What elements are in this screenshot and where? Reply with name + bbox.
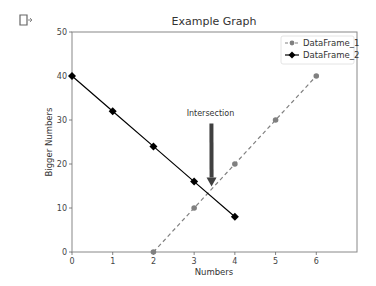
x-tick-label: 4 bbox=[232, 257, 237, 266]
y-axis-label: Bigger Numbers bbox=[44, 107, 54, 177]
y-tick-label: 50 bbox=[57, 28, 67, 37]
legend-label-1: DataFrame_1 bbox=[303, 38, 359, 48]
y-tick-label: 20 bbox=[57, 160, 67, 169]
legend-label-2: DataFrame_2 bbox=[303, 50, 359, 60]
x-axis-ticks: 0123456 bbox=[69, 252, 318, 266]
x-tick-label: 2 bbox=[151, 257, 156, 266]
x-tick-label: 3 bbox=[192, 257, 197, 266]
chart-title: Example Graph bbox=[172, 15, 257, 28]
data-point bbox=[191, 205, 197, 211]
legend: DataFrame_1 DataFrame_2 bbox=[281, 36, 359, 64]
y-tick-label: 30 bbox=[57, 116, 67, 125]
plot-area bbox=[72, 32, 357, 252]
data-point bbox=[313, 73, 319, 79]
x-tick-label: 1 bbox=[110, 257, 115, 266]
chart: Example Graph 0123456 01020304050 Number… bbox=[0, 0, 376, 286]
circle-marker-icon bbox=[290, 41, 295, 46]
y-tick-label: 0 bbox=[62, 248, 67, 257]
x-tick-label: 5 bbox=[273, 257, 278, 266]
data-point bbox=[273, 117, 279, 123]
annotation-text: Intersection bbox=[187, 109, 235, 118]
y-axis-ticks: 01020304050 bbox=[57, 28, 72, 257]
x-tick-label: 0 bbox=[69, 257, 74, 266]
y-tick-label: 40 bbox=[57, 72, 67, 81]
x-tick-label: 6 bbox=[314, 257, 319, 266]
x-axis-label: Numbers bbox=[195, 267, 234, 277]
y-tick-label: 10 bbox=[57, 204, 67, 213]
data-point bbox=[232, 161, 238, 167]
data-point bbox=[151, 249, 157, 255]
